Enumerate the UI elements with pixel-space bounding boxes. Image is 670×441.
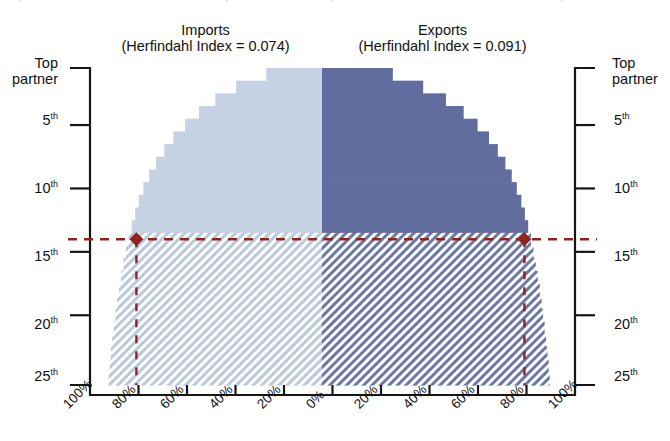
imports-row-10 [143, 182, 322, 195]
exports-row-4 [322, 106, 464, 119]
imports-row-15 [126, 246, 322, 259]
exports-row-9 [322, 169, 512, 182]
exports-row-12 [322, 207, 525, 220]
exports-row-5 [322, 119, 478, 132]
imports-row-8 [156, 157, 322, 170]
imports-row-3 [215, 93, 322, 106]
imports-row-22 [112, 334, 322, 347]
exports-row-21 [322, 322, 545, 335]
imports-row-18 [119, 284, 322, 297]
imports-bars [109, 68, 322, 386]
imports-row-6 [174, 131, 322, 144]
exports-row-2 [322, 81, 423, 94]
imports-row-2 [236, 81, 322, 94]
exports-row-17 [322, 271, 538, 284]
imports-row-13 [132, 220, 322, 233]
imports-row-19 [117, 296, 322, 309]
imports-row-21 [114, 322, 322, 335]
left-axis-spine [70, 68, 90, 385]
imports-row-1 [266, 68, 322, 81]
exports-row-7 [322, 144, 498, 157]
exports-row-1 [322, 68, 393, 81]
imports-row-9 [149, 169, 322, 182]
imports-row-5 [185, 119, 322, 132]
imports-row-7 [164, 144, 322, 157]
imports-row-25 [109, 372, 322, 385]
exports-row-15 [322, 246, 534, 259]
imports-row-20 [115, 309, 322, 322]
imports-row-4 [199, 106, 322, 119]
imports-row-16 [123, 258, 322, 271]
exports-row-3 [322, 93, 446, 106]
imports-row-24 [110, 360, 322, 373]
right-axis-spine [575, 68, 595, 385]
exports-row-18 [322, 284, 540, 297]
imports-row-17 [121, 271, 322, 284]
exports-row-10 [322, 182, 517, 195]
exports-bars [322, 68, 550, 386]
exports-row-24 [322, 360, 549, 373]
imports-row-23 [111, 347, 322, 360]
exports-row-11 [322, 195, 521, 208]
exports-row-6 [322, 131, 489, 144]
chart-figure: , . , , ' , Imports (Herfindahl Index = … [0, 0, 670, 441]
exports-row-16 [322, 258, 536, 271]
exports-row-19 [322, 296, 542, 309]
exports-row-8 [322, 157, 505, 170]
exports-row-20 [322, 309, 543, 322]
exports-row-23 [322, 347, 547, 360]
imports-row-12 [135, 207, 322, 220]
plot-area [0, 0, 670, 441]
exports-row-13 [322, 220, 528, 233]
imports-row-11 [139, 195, 322, 208]
exports-row-22 [322, 334, 546, 347]
